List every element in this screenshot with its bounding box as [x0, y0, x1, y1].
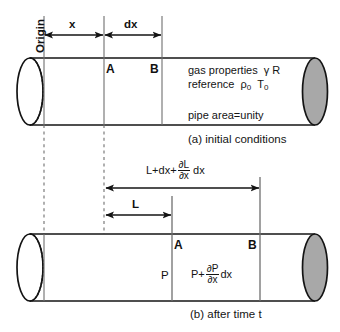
caption-panel-b: (b) after time t [190, 308, 262, 320]
pressure-right-label: P+∂P∂xdx [191, 264, 232, 285]
reference-text: reference [188, 78, 234, 90]
long-dimension-suffix: dx [193, 164, 205, 176]
origin-label-wrap: Origin [33, 12, 47, 64]
station-a-lower: A [174, 238, 183, 252]
gas-properties-text: gas properties [188, 64, 258, 76]
pressure-right-prefix: P+ [191, 268, 205, 280]
long-dimension-prefix: L+dx+ [146, 164, 177, 176]
dimension-x-label: x [69, 18, 75, 30]
caption-panel-a: (a) initial conditions [188, 133, 286, 145]
upper-pipe-body [17, 58, 328, 125]
pressure-right-fraction: ∂P∂x [206, 264, 220, 285]
long-dimension-label: L+dx+∂L∂xdx [146, 160, 205, 181]
gas-properties-label: gas properties γ R [188, 64, 280, 76]
dimension-L-label: L [132, 198, 139, 210]
station-b-upper: B [150, 62, 159, 76]
reference-label: reference ρ0 T0 [188, 78, 269, 92]
panel-connector-dashes [44, 125, 104, 234]
pipe-area-label: pipe area=unity [188, 109, 264, 121]
pressure-right-suffix: dx [220, 268, 232, 280]
figure-canvas: Origin x dx A B gas properties γ R refer… [0, 0, 340, 332]
long-dimension-denominator: ∂x [178, 171, 191, 181]
station-a-upper: A [106, 62, 115, 76]
reference-rho-subscript: 0 [247, 83, 251, 92]
origin-label: Origin [34, 10, 46, 62]
gas-properties-symbols: γ R [264, 64, 281, 76]
pressure-left-label: P [161, 269, 169, 281]
reference-T-subscript: 0 [264, 83, 268, 92]
long-dimension-fraction: ∂L∂x [178, 160, 191, 181]
station-b-lower: B [248, 238, 257, 252]
pressure-right-denominator: ∂x [206, 275, 220, 285]
dimension-dx-label: dx [124, 18, 137, 30]
